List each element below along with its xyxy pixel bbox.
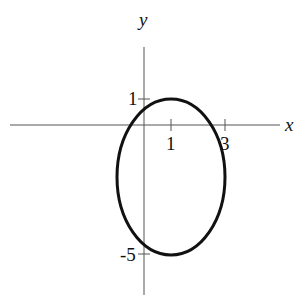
x-axis-label: x — [284, 114, 294, 135]
y-tick-label-1: 1 — [128, 88, 138, 109]
y-axis-label: y — [137, 9, 148, 30]
plot: y x 1 3 1 -5 — [0, 0, 298, 295]
y-tick-label-neg5: -5 — [120, 244, 136, 265]
x-tick-label-3: 3 — [220, 133, 230, 154]
x-tick-label-1: 1 — [166, 133, 176, 154]
diagram: y x 1 3 1 -5 — [0, 0, 298, 295]
